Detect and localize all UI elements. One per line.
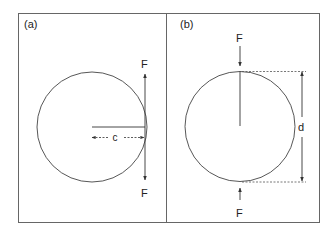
figure-canvas: (a) F F c (b) F F d — [0, 0, 334, 232]
force-label-top-b: F — [236, 32, 243, 44]
panel-a-label: (a) — [24, 18, 37, 30]
force-label-bottom-a: F — [141, 187, 148, 199]
panel-a: (a) F F c — [24, 18, 148, 199]
panel-b: (b) F F d — [180, 18, 306, 219]
figure-frame — [19, 13, 320, 223]
dimension-c-label: c — [113, 132, 118, 143]
dimension-d-label: d — [298, 121, 304, 133]
force-label-bottom-b: F — [236, 207, 243, 219]
panel-b-label: (b) — [180, 18, 193, 30]
force-label-top-a: F — [141, 58, 148, 70]
